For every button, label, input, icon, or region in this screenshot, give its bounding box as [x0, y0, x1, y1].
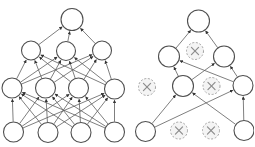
connection-arrow — [79, 99, 80, 122]
connection-arrow — [243, 97, 244, 120]
connection-arrow — [12, 99, 13, 121]
neuron-node — [93, 41, 112, 60]
connection-arrow — [68, 32, 70, 42]
neuron-node — [22, 41, 41, 60]
standard-network — [2, 9, 125, 143]
dropped-neuron-node — [203, 78, 220, 95]
neuron-node — [36, 78, 56, 98]
connection-arrow — [54, 57, 93, 83]
screenshot-root — [0, 0, 254, 147]
neuron-node — [105, 79, 125, 99]
neuron-node — [159, 46, 180, 67]
neuron-node — [234, 121, 254, 141]
connection-arrow — [176, 31, 191, 49]
connection-arrow — [81, 28, 95, 43]
connection-arrow — [174, 67, 178, 76]
neuron-node — [57, 42, 76, 61]
connection-arrow — [231, 66, 238, 76]
neuron-node — [61, 9, 83, 31]
neuron-node — [136, 122, 156, 142]
connection-arrow — [206, 31, 218, 48]
neuron-node — [105, 122, 125, 142]
connection-arrow — [53, 97, 75, 124]
connection-arrow — [192, 63, 214, 79]
connection-arrow — [155, 90, 233, 127]
networks-group — [2, 9, 254, 143]
connection-arrow — [39, 27, 62, 45]
neuron-node — [69, 78, 89, 98]
connection-arrow — [35, 61, 42, 79]
neuron-node — [214, 46, 235, 67]
connection-arrow — [17, 60, 26, 78]
neuron-node — [4, 122, 24, 142]
dropout-network — [136, 10, 255, 142]
dropped-neuron-node — [139, 79, 156, 96]
neuron-node — [173, 76, 194, 97]
connection-arrow — [105, 61, 111, 79]
dropped-neuron-node — [171, 122, 188, 139]
neuron-node — [38, 123, 58, 143]
neuron-node — [233, 76, 253, 96]
neural-network-diagram — [0, 0, 254, 147]
neuron-node — [2, 78, 22, 98]
neuron-node — [71, 123, 91, 143]
connection-arrow — [193, 93, 236, 124]
dropped-neuron-node — [203, 122, 220, 139]
dropped-neuron-node — [187, 43, 204, 60]
neuron-node — [188, 10, 210, 32]
